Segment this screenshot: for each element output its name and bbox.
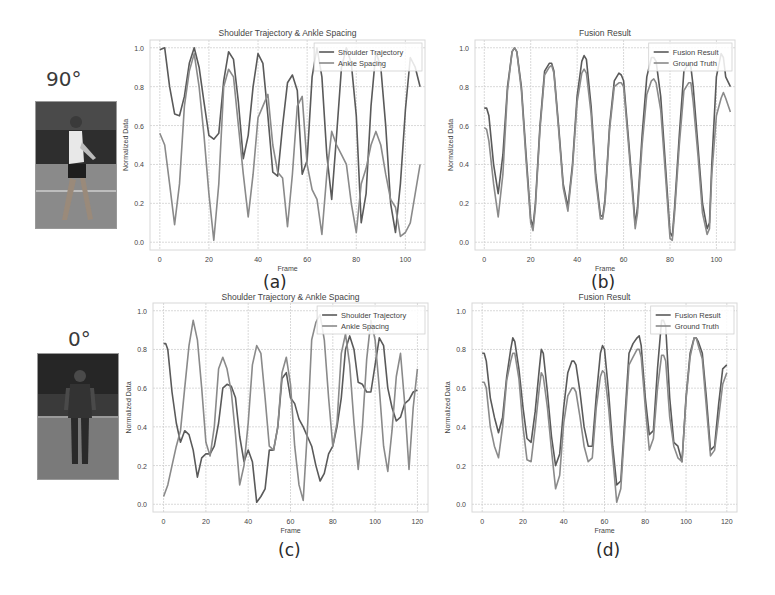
y-tick-label: 0.2 [137, 463, 147, 470]
panel-label-b: (b) [591, 272, 615, 292]
x-tick-label: 40 [560, 518, 568, 525]
y-tick-label: 1.0 [459, 45, 469, 52]
chart-c: 0.00.20.40.60.81.0020406080100120Shoulde… [125, 292, 428, 534]
chart-b: 0.00.20.40.60.81.0020406080100Fusion Res… [447, 28, 735, 272]
chart-a: 0.00.20.40.60.81.0020406080100Shoulder T… [122, 28, 425, 272]
x-tick-label: 0 [480, 518, 484, 525]
legend-label: Ground Truth [675, 322, 719, 331]
x-tick-label: 100 [680, 518, 692, 525]
y-tick-label: 0.0 [459, 239, 469, 246]
x-tick-label: 60 [620, 256, 628, 263]
y-tick-label: 1.0 [456, 308, 466, 315]
y-tick-label: 1.0 [137, 308, 147, 315]
x-tick-label: 80 [666, 256, 674, 263]
plot-area [475, 40, 735, 250]
x-tick-label: 80 [352, 256, 360, 263]
x-axis-label: Frame [594, 527, 614, 534]
x-tick-label: 100 [711, 256, 723, 263]
legend-label: Ankle Spacing [338, 59, 386, 68]
y-tick-label: 0.6 [456, 385, 466, 392]
y-axis-label: Normalized Data [447, 119, 454, 171]
y-tick-label: 0.2 [456, 463, 466, 470]
y-tick-label: 0.2 [134, 200, 144, 207]
chart-title: Shoulder Trajectory & Ankle Spacing [219, 28, 357, 38]
x-tick-label: 20 [202, 518, 210, 525]
x-tick-label: 100 [369, 518, 381, 525]
panel-label-d: (d) [596, 540, 620, 560]
x-tick-label: 20 [527, 256, 535, 263]
y-axis-label: Normalized Data [125, 381, 132, 433]
x-tick-label: 40 [244, 518, 252, 525]
x-tick-label: 60 [303, 256, 311, 263]
x-tick-label: 20 [205, 256, 213, 263]
y-tick-label: 1.0 [134, 45, 144, 52]
legend-label: Ground Truth [673, 59, 717, 68]
x-tick-label: 80 [329, 518, 337, 525]
x-axis-label: Frame [277, 265, 297, 272]
x-axis-label: Frame [595, 265, 615, 272]
x-tick-label: 0 [482, 256, 486, 263]
x-tick-label: 60 [287, 518, 295, 525]
chart-d: 0.00.20.40.60.81.0020406080100120Fusion … [444, 292, 737, 534]
y-tick-label: 0.4 [459, 161, 469, 168]
x-tick-label: 40 [573, 256, 581, 263]
legend-label: Fusion Result [673, 48, 720, 57]
y-tick-label: 0.0 [137, 501, 147, 508]
x-tick-label: 120 [412, 518, 424, 525]
chart-title: Fusion Result [579, 28, 632, 38]
chart-title: Fusion Result [579, 292, 632, 302]
y-tick-label: 0.4 [137, 424, 147, 431]
x-tick-label: 20 [519, 518, 527, 525]
y-tick-label: 0.0 [134, 239, 144, 246]
chart-title: Shoulder Trajectory & Ankle Spacing [222, 292, 360, 302]
y-tick-label: 0.8 [459, 84, 469, 91]
y-tick-label: 0.6 [137, 385, 147, 392]
y-tick-label: 0.0 [456, 501, 466, 508]
x-tick-label: 0 [162, 518, 166, 525]
y-tick-label: 0.6 [134, 123, 144, 130]
legend-label: Ankle Spacing [341, 322, 389, 331]
legend-label: Fusion Result [675, 311, 722, 320]
y-tick-label: 0.8 [456, 346, 466, 353]
y-tick-label: 0.8 [134, 84, 144, 91]
x-tick-label: 40 [254, 256, 262, 263]
y-tick-label: 0.6 [459, 123, 469, 130]
x-tick-label: 120 [721, 518, 733, 525]
y-axis-label: Normalized Data [122, 119, 129, 171]
x-tick-label: 80 [641, 518, 649, 525]
x-axis-label: Frame [280, 527, 300, 534]
x-tick-label: 100 [400, 256, 412, 263]
x-tick-label: 0 [158, 256, 162, 263]
legend-label: Shoulder Trajectory [341, 311, 406, 320]
y-tick-label: 0.4 [134, 161, 144, 168]
panel-label-a: (a) [263, 272, 287, 292]
y-tick-label: 0.8 [137, 346, 147, 353]
x-tick-label: 60 [601, 518, 609, 525]
panel-label-c: (c) [278, 540, 301, 560]
y-tick-label: 0.2 [459, 200, 469, 207]
y-axis-label: Normalized Data [444, 381, 451, 433]
figure-charts: 0.00.20.40.60.81.0020406080100Shoulder T… [0, 0, 775, 595]
y-tick-label: 0.4 [456, 424, 466, 431]
legend-label: Shoulder Trajectory [338, 48, 403, 57]
